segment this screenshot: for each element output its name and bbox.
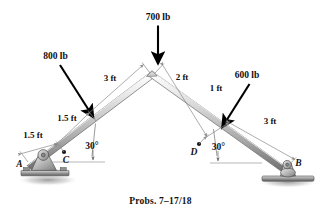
support-b-roller-drum [281,168,296,177]
support-a-pin-hole [41,153,45,157]
figure-container: 700 lb 800 lb 600 lb 1.5 ft 1.5 ft [0,0,321,216]
load-800-arrow [60,65,94,118]
angle-right-label: 30° [212,142,226,152]
point-markers [62,142,201,154]
dim-left-load-apex-label: 3 ft [104,73,117,83]
dim-right-load-b-label: 3 ft [264,116,277,126]
dim-tick-apex-left [142,62,150,73]
dim-right-apex-d-label: 2 ft [176,72,189,82]
load-600-label: 600 lb [235,70,260,80]
dim-tick-apex-right [155,63,164,73]
support-a-bolt-right [60,168,66,171]
figure-caption: Probs. 7–17/18 [129,196,191,206]
load-800-group: 800 lb [43,51,93,118]
load-600-group: 600 lb [222,70,259,128]
load-700-group: 700 lb [146,12,171,65]
load-800-label: 800 lb [43,51,68,61]
point-d-label: D [190,147,198,157]
dimensions-right-member: 2 ft 1 ft 3 ft [155,63,296,167]
load-600-arrow [222,84,250,128]
support-a-pin [21,150,69,176]
dim-right-d-load-label: 1 ft [210,83,223,93]
point-b-label: B [294,158,301,168]
dim-left-a-c-label: 1.5 ft [23,130,43,140]
point-a-label: A [15,159,22,169]
angle-left-label: 30° [85,141,99,151]
support-a-baseplate [21,170,69,175]
support-a-bolt-left [24,168,30,171]
point-c-label: C [63,155,70,165]
load-700-label: 700 lb [146,12,171,22]
dim-left-c-load-label: 1.5 ft [57,113,77,123]
frame-diagram: 700 lb 800 lb 600 lb 1.5 ft 1.5 ft [0,0,321,216]
angle-left-leader [92,124,96,157]
support-b-roller [262,160,314,181]
